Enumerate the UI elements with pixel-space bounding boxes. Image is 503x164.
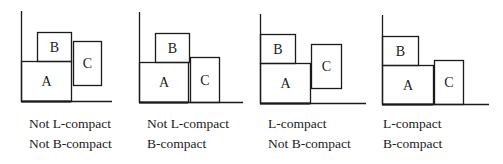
box-b: B [383,37,419,66]
panel-4: ABC [382,15,489,105]
box-a: A [140,63,189,103]
box-label: C [444,75,453,90]
box-c: C [191,58,220,103]
l-compact-status: L-compact [383,114,441,133]
box-label: B [396,44,405,59]
box-label: C [200,73,209,88]
box-label: C [83,56,92,71]
box-b: B [156,34,190,63]
box-c: C [74,42,102,86]
b-compact-status: Not B-compact [268,134,351,153]
box-a: A [22,62,72,102]
box-a: A [383,66,434,105]
l-compact-status: Not L-compact [29,114,111,133]
box-label: A [280,76,291,91]
panel-1: ABC [21,11,112,102]
box-c: C [435,61,464,105]
box-label: A [159,75,170,90]
box-c: C [312,45,342,89]
box-label: A [41,74,52,89]
panel-3: ABC [260,14,366,104]
box-label: B [168,41,177,56]
b-compact-status: B-compact [383,134,442,153]
box-label: B [273,42,282,57]
b-compact-status: Not B-compact [29,134,112,153]
box-label: C [322,59,331,74]
box-b: B [261,35,296,64]
box-a: A [261,64,311,104]
l-compact-status: Not L-compact [147,114,229,133]
box-label: A [403,78,414,93]
b-compact-status: B-compact [147,134,206,153]
panel-2: ABC [139,12,243,103]
box-b: B [38,33,72,62]
box-label: B [50,40,59,55]
l-compact-status: L-compact [268,114,326,133]
